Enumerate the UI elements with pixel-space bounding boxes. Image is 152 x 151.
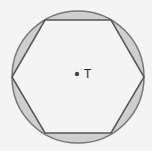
diagram-canvas: T: [0, 0, 152, 151]
center-label: T: [84, 68, 91, 80]
hexagon-in-circle-figure: [0, 0, 152, 151]
center-point: [75, 72, 79, 76]
